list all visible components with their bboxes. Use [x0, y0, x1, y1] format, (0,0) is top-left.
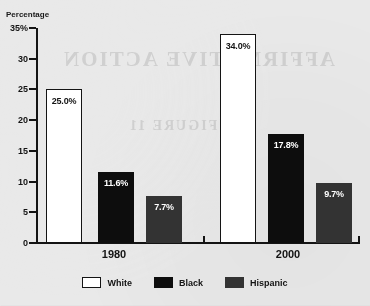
y-tick-mark [29, 150, 36, 152]
legend-item-hispanic[interactable]: Hispanic [225, 277, 288, 288]
bar-value-label: 7.7% [146, 202, 182, 212]
y-tick-label: 30 [18, 54, 28, 64]
y-tick-mark [29, 119, 36, 121]
bar-1980-white: 25.0% [46, 89, 82, 243]
y-tick-mark [29, 58, 36, 60]
y-tick-label: 15 [18, 146, 28, 156]
legend-item-white[interactable]: White [82, 277, 132, 288]
x-tick-mark [203, 236, 205, 243]
bar-value-label: 9.7% [316, 189, 352, 199]
legend-item-black[interactable]: Black [154, 277, 203, 288]
y-tick-mark [29, 27, 36, 29]
bar-1980-hispanic: 7.7% [146, 196, 182, 243]
bar-2000-hispanic: 9.7% [316, 183, 352, 243]
chart-page: AFFIRMATIVE ACTION FIGURE 11 Percentage … [0, 0, 370, 306]
x-tick-mark [358, 236, 360, 243]
y-axis-line [36, 28, 38, 244]
y-tick-label: 20 [18, 115, 28, 125]
y-tick-mark [29, 181, 36, 183]
bar-value-label: 25.0% [47, 96, 81, 106]
y-tick-mark [29, 242, 36, 244]
bar-2000-white: 34.0% [220, 34, 256, 243]
legend-label: White [107, 278, 132, 288]
bar-value-label: 17.8% [268, 140, 304, 150]
bar-2000-black: 17.8% [268, 134, 304, 243]
y-tick-label: 0 [23, 238, 28, 248]
x-axis-group-label-2000: 2000 [276, 248, 300, 260]
x-axis-group-label-1980: 1980 [102, 248, 126, 260]
y-tick-mark [29, 211, 36, 213]
legend-label: Black [179, 278, 203, 288]
y-tick-label: 25 [18, 84, 28, 94]
legend-swatch-icon [154, 277, 173, 288]
legend-swatch-icon [225, 277, 244, 288]
bar-value-label: 34.0% [221, 41, 255, 51]
x-axis-line [36, 242, 360, 244]
y-tick-label: 35% [10, 23, 28, 33]
plot-area: 35%302520151050 25.0%11.6%7.7%34.0%17.8%… [0, 0, 370, 306]
y-tick-mark [29, 88, 36, 90]
legend-label: Hispanic [250, 278, 288, 288]
legend-swatch-icon [82, 277, 101, 288]
y-tick-label: 5 [23, 207, 28, 217]
y-tick-label: 10 [18, 177, 28, 187]
bar-value-label: 11.6% [98, 178, 134, 188]
chart-legend: WhiteBlackHispanic [0, 277, 370, 288]
bar-1980-black: 11.6% [98, 172, 134, 243]
